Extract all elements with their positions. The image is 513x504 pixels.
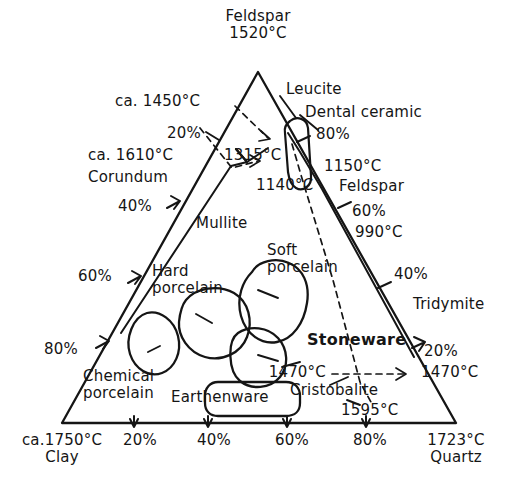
temp-1140: 1140°C <box>256 177 313 194</box>
label-leucite: Leucite <box>286 81 342 98</box>
region-chemical-porcelain <box>129 312 180 374</box>
dashed-arrow-upper-left-head <box>259 131 270 141</box>
axis-bottom-tick-60: 60% <box>275 432 309 449</box>
axis-bottom-tick-20: 20% <box>123 432 157 449</box>
temp-1150: 1150°C <box>324 158 381 175</box>
tick-top-80-pct: 80% <box>316 126 350 143</box>
axis-bottom-tick-40: 40% <box>197 432 231 449</box>
axis-label-clay: ca.1750°C Clay <box>22 432 102 466</box>
ternary-diagram-page: Feldspar 1520°C Leucite Dental ceramic 8… <box>0 0 513 504</box>
clay-name: Clay <box>22 449 102 466</box>
tick-left-60-pct: 60% <box>78 268 112 285</box>
field-label-feldspar: Feldspar <box>339 178 404 195</box>
quartz-temp: 1723°C <box>427 432 484 449</box>
tick-right-20-pct: 20% <box>424 343 458 360</box>
apex-feldspar-temp: 1520°C <box>225 25 290 42</box>
label-dental-ceramic: Dental ceramic <box>305 104 422 121</box>
tick-left-20-pct: 20% <box>167 125 201 142</box>
soft-porcelain-line2: porcelain <box>267 259 338 276</box>
soft-porcelain-line1: Soft <box>267 242 338 259</box>
temp-1595: 1595°C <box>341 402 398 419</box>
apex-feldspar-name: Feldspar <box>225 8 290 25</box>
chemical-porcelain-line2: porcelain <box>83 385 154 402</box>
temp-ca-1610: ca. 1610°C <box>88 147 173 164</box>
clay-temp: ca.1750°C <box>22 432 102 449</box>
field-label-corundum: Corundum <box>88 169 168 186</box>
quartz-name: Quartz <box>427 449 484 466</box>
hard-porcelain-line2: porcelain <box>152 280 223 297</box>
tick-right-60-pct: 60% <box>352 203 386 220</box>
tick-left-80-pct: 80% <box>44 341 78 358</box>
temp-1470-right: 1470°C <box>421 364 478 381</box>
hard-porcelain-line1: Hard <box>152 263 223 280</box>
temp-ca-1450: ca. 1450°C <box>115 93 200 110</box>
label-earthenware: Earthenware <box>171 389 269 406</box>
tick-right-40-pct: 40% <box>394 266 428 283</box>
region-leader-ticks <box>148 290 300 367</box>
axis-label-quartz: 1723°C Quartz <box>427 432 484 466</box>
label-hard-porcelain: Hard porcelain <box>152 263 223 297</box>
axis-bottom-tick-80: 80% <box>353 432 387 449</box>
tick-left-40-pct: 40% <box>118 198 152 215</box>
temp-990: 990°C <box>355 224 403 241</box>
chemical-porcelain-line1: Chemical <box>83 368 154 385</box>
temp-1315: 1315°C <box>224 147 281 164</box>
apex-label-feldspar: Feldspar 1520°C <box>225 8 290 42</box>
field-label-mullite: Mullite <box>196 215 247 232</box>
ternary-diagram-canvas <box>0 0 513 504</box>
label-soft-porcelain: Soft porcelain <box>267 242 338 276</box>
label-chemical-porcelain: Chemical porcelain <box>83 368 154 402</box>
bottom-axis-ticks <box>130 416 370 427</box>
field-label-tridymite: Tridymite <box>413 296 484 313</box>
field-label-cristobalite: Cristobalite <box>290 382 378 399</box>
label-stoneware: Stoneware <box>307 331 406 349</box>
temp-1470-inner: 1470°C <box>269 364 326 381</box>
